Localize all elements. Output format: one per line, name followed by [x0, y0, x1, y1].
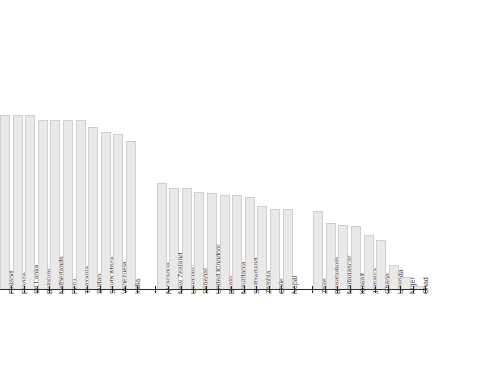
- x-axis-tick: [125, 286, 126, 293]
- bar: [88, 127, 98, 289]
- x-axis-tick: [168, 286, 169, 293]
- x-axis-tick: [244, 286, 245, 293]
- x-axis-tick: [362, 286, 363, 293]
- x-axis-tick: [193, 286, 194, 293]
- x-axis-tick: [231, 286, 232, 293]
- x-axis-tick: [337, 286, 338, 293]
- x-axis-tick: [49, 286, 50, 293]
- x-axis-tick: [37, 286, 38, 293]
- x-axis-tick: [11, 286, 12, 293]
- x-axis-tick: [24, 286, 25, 293]
- x-axis-tick: [269, 286, 270, 293]
- x-axis-tick: [413, 286, 414, 293]
- bar: [25, 115, 35, 289]
- bar: [220, 195, 230, 289]
- plot-area: FinlandFranceSri LankaBelgiumNetherlands…: [0, 0, 482, 368]
- x-axis-tick: [155, 286, 156, 293]
- x-axis-tick: [281, 286, 282, 293]
- x-axis-tick: [218, 286, 219, 293]
- x-axis-tick: [112, 286, 113, 293]
- bar: [63, 120, 73, 289]
- bar: [76, 120, 86, 289]
- x-axis-tick: [375, 286, 376, 293]
- x-axis-tick: [137, 286, 138, 293]
- x-axis-tick: [74, 286, 75, 293]
- bar: [38, 120, 48, 289]
- x-axis-tick: [256, 286, 257, 293]
- x-axis-tick: [100, 286, 101, 293]
- bar: [270, 209, 280, 289]
- bar: [126, 141, 136, 289]
- x-axis-tick: [312, 286, 313, 293]
- bar: [13, 115, 23, 289]
- x-axis-tick: [181, 286, 182, 293]
- x-axis-tick: [388, 286, 389, 293]
- x-axis-tick: [425, 286, 426, 293]
- x-axis-tick: [62, 286, 63, 293]
- x-axis-tick: [294, 286, 295, 293]
- x-axis-tick: [350, 286, 351, 293]
- x-axis-tick: [400, 286, 401, 293]
- bar: [0, 115, 10, 289]
- x-axis-tick: [206, 286, 207, 293]
- x-axis-tick: [87, 286, 88, 293]
- bar-chart: FinlandFranceSri LankaBelgiumNetherlands…: [0, 0, 482, 368]
- x-axis-tick: [325, 286, 326, 293]
